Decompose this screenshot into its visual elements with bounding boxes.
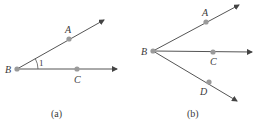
label-b: B [141, 46, 147, 57]
ray-bc [153, 51, 252, 52]
ray-bd [153, 51, 237, 101]
label-a: A [201, 7, 209, 18]
label-c: C [74, 74, 81, 85]
point-a-dot [66, 36, 71, 41]
point-d-dot [206, 79, 211, 84]
label-d: D [199, 86, 208, 97]
point-b-dot [14, 66, 19, 71]
figure-a: B A C 1 (a) [5, 20, 117, 120]
angle-label: 1 [39, 58, 44, 68]
point-c-dot [74, 66, 79, 71]
point-a-dot [203, 19, 208, 24]
label-c: C [210, 56, 217, 67]
ray-ba [17, 20, 104, 69]
angle-arc [35, 59, 38, 69]
figure-b: B A C D (b) [141, 5, 252, 120]
point-b-dot [150, 48, 155, 53]
point-c-dot [210, 49, 215, 54]
caption-a: (a) [51, 108, 62, 120]
ray-ba [153, 5, 239, 51]
label-b: B [5, 64, 11, 75]
caption-b: (b) [187, 108, 199, 120]
label-a: A [64, 24, 72, 35]
angle-diagrams: B A C 1 (a) B A C D (b) [0, 0, 257, 126]
